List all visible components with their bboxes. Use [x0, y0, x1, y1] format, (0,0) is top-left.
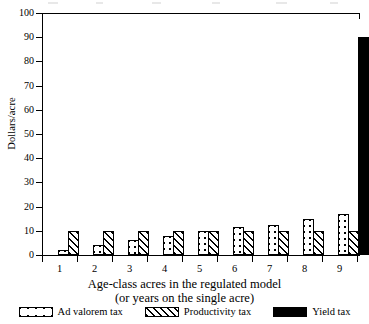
y-tick-label-70: 70: [6, 81, 34, 91]
x-tick-b8: [322, 256, 323, 262]
bar-prod-3: [138, 231, 149, 255]
y-tick-label-80: 80: [6, 56, 34, 66]
legend-label-yield-tax: Yield tax: [312, 306, 350, 317]
x-tick-label-8: 8: [293, 263, 317, 274]
x-tick-b6: [252, 256, 253, 262]
legend-label-ad-valorem-tax: Ad valorem tax: [58, 306, 123, 317]
x-tick-label-7: 7: [258, 263, 282, 274]
x-axis-line: [42, 255, 360, 256]
x-tick-label-3: 3: [118, 263, 142, 274]
x-tick-b0: [42, 256, 43, 262]
y-tick-label-90: 90: [6, 32, 34, 42]
bar-prod-6: [243, 231, 254, 255]
x-axis-title-line2: (or years on the single acre): [0, 291, 369, 305]
y-tick-label-60: 60: [6, 105, 34, 115]
bars-layer: [42, 13, 360, 255]
y-tick-label-100: 100: [6, 8, 34, 18]
y-tick-label-20: 20: [6, 202, 34, 212]
legend-item-ad-valorem-tax: Ad valorem tax: [19, 306, 123, 317]
x-tick-b9: [357, 256, 358, 262]
x-tick-label-5: 5: [188, 263, 212, 274]
x-tick-b4: [182, 256, 183, 262]
y-tick-label-10: 10: [6, 226, 34, 236]
x-axis-title-line1: Age-class acres in the regulated model: [0, 277, 369, 291]
y-tick-label-50: 50: [6, 129, 34, 139]
bar-prod-2: [103, 231, 114, 255]
bar-chart: Dollars/acre 0 10 20 30 40 50 60 70 80 9…: [0, 0, 369, 324]
y-tick-label-0: 0: [6, 250, 34, 260]
legend-item-productivity-tax: Productivity tax: [145, 306, 251, 317]
y-axis-title: Dollars/acre: [6, 89, 17, 159]
bar-prod-8: [313, 231, 324, 255]
bar-yield-9: [358, 37, 369, 255]
x-tick-label-1: 1: [48, 263, 72, 274]
cross-hatch-diamond-swatch-icon: [19, 307, 53, 317]
bar-prod-1: [68, 231, 79, 255]
legend-item-yield-tax: Yield tax: [273, 306, 350, 317]
chart-legend: Ad valorem tax Productivity tax Yield ta…: [0, 306, 369, 317]
x-tick-b1: [77, 256, 78, 262]
x-tick-label-9: 9: [328, 263, 352, 274]
x-tick-b2: [112, 256, 113, 262]
diagonal-hatch-swatch-icon: [145, 307, 179, 317]
bar-prod-5: [208, 231, 219, 255]
x-tick-label-6: 6: [223, 263, 247, 274]
solid-black-swatch-icon: [273, 307, 307, 317]
x-tick-label-4: 4: [153, 263, 177, 274]
bar-prod-4: [173, 231, 184, 255]
x-tick-b5: [217, 256, 218, 262]
y-tick-label-30: 30: [6, 177, 34, 187]
scan-artifact-strip: [0, 0, 369, 6]
x-tick-b3: [147, 256, 148, 262]
legend-label-productivity-tax: Productivity tax: [184, 306, 251, 317]
x-tick-b7: [287, 256, 288, 262]
x-tick-label-2: 2: [83, 263, 107, 274]
bar-prod-7: [278, 231, 289, 255]
y-tick-label-40: 40: [6, 153, 34, 163]
